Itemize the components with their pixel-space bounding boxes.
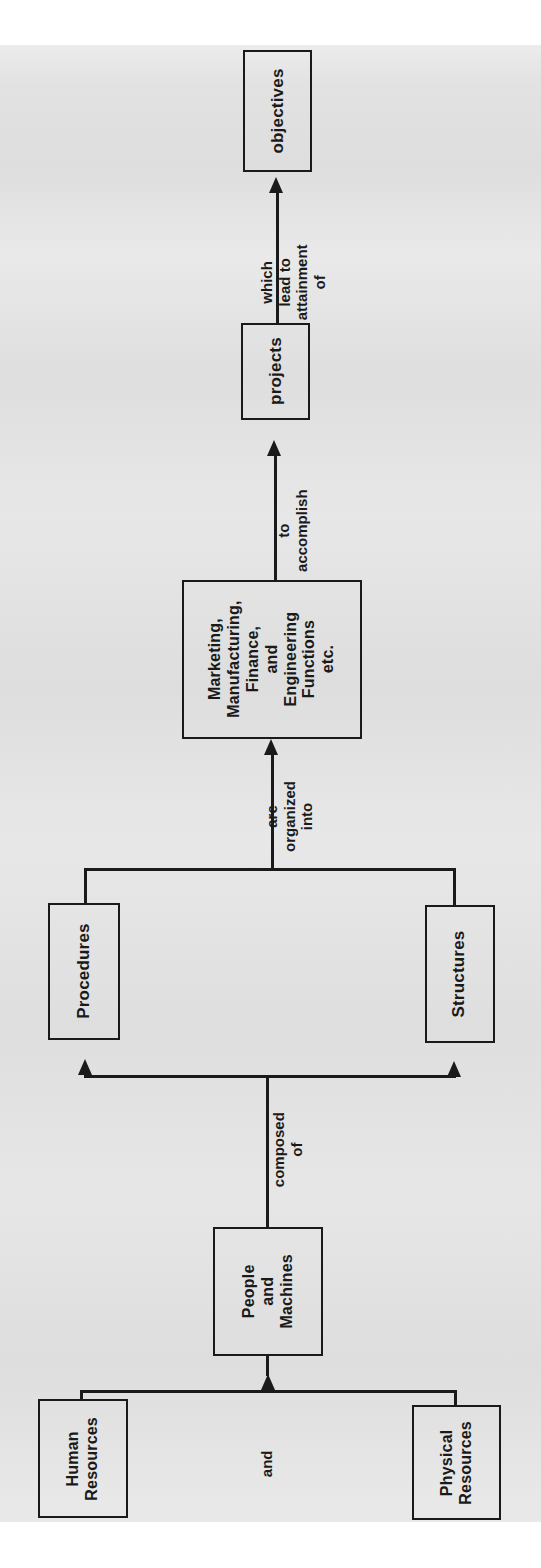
edge-label-composed-line2: of bbox=[288, 1143, 305, 1157]
node-objectives-label: objectives bbox=[267, 68, 287, 153]
node-people-line1: People bbox=[240, 1265, 257, 1319]
node-functions-line3: Finance, bbox=[244, 626, 261, 693]
edge-label-organized-line2: organized bbox=[281, 781, 298, 852]
node-structures: Structures bbox=[425, 905, 495, 1043]
edge-label-and: and bbox=[258, 1434, 276, 1494]
node-physical-line1: Physical bbox=[438, 1429, 455, 1496]
node-functions-line4: and bbox=[263, 645, 280, 674]
bracket-physical-resources-stem bbox=[454, 1390, 457, 1406]
edge-projects-to-objectives-arrowhead bbox=[269, 177, 283, 193]
edge-label-and-text: and bbox=[258, 1451, 275, 1478]
edge-label-accomplish-line1: to bbox=[275, 524, 292, 538]
edge-to-structures-arrowhead bbox=[447, 1061, 461, 1077]
edge-label-organized-into: are organized into bbox=[263, 754, 316, 880]
node-functions-label: Marketing, Manufacturing, Finance, and E… bbox=[206, 601, 338, 718]
edge-functions-to-projects-arrowhead bbox=[267, 440, 281, 456]
node-human-resources: Human Resources bbox=[38, 1399, 128, 1518]
edge-label-accomplish: to accomplish bbox=[275, 468, 310, 594]
node-objectives: objectives bbox=[243, 50, 312, 172]
bracket-resources-bar bbox=[80, 1390, 457, 1393]
bracket-structures-stem bbox=[453, 868, 456, 907]
node-people-and-machines: People and Machines bbox=[213, 1227, 323, 1356]
node-people-label: People and Machines bbox=[240, 1254, 297, 1329]
edge-label-lead-to-line4: of bbox=[311, 275, 328, 289]
bracket-procedures-stem bbox=[84, 868, 87, 905]
node-functions: Marketing, Manufacturing, Finance, and E… bbox=[182, 580, 362, 739]
node-human-label: Human Resources bbox=[64, 1417, 102, 1501]
node-procedures-label: Procedures bbox=[74, 924, 94, 1020]
edge-label-accomplish-line2: accomplish bbox=[293, 489, 310, 572]
node-people-line2: and bbox=[259, 1277, 276, 1306]
edge-resources-to-people-arrowhead bbox=[261, 1374, 275, 1390]
edge-label-organized-line1: are bbox=[263, 805, 280, 828]
flowchart-diagram: objectives which lead to attainment of p… bbox=[0, 0, 541, 1568]
node-functions-line7: etc. bbox=[319, 645, 336, 673]
bracket-composed-of-bar bbox=[84, 1075, 456, 1078]
node-physical-line2: Resources bbox=[457, 1421, 474, 1505]
edge-label-organized-line3: into bbox=[299, 803, 316, 831]
edge-people-to-bracket-line bbox=[266, 1075, 269, 1227]
node-physical-resources: Physical Resources bbox=[412, 1405, 501, 1520]
edge-to-procedures-arrowhead bbox=[78, 1059, 92, 1075]
edge-resources-to-people-line bbox=[266, 1356, 269, 1376]
edge-label-composed-of: composed of bbox=[270, 1085, 305, 1215]
edge-label-lead-to-line3: attainment bbox=[293, 244, 310, 320]
node-projects: projects bbox=[241, 323, 310, 420]
edge-label-lead-to-line2: lead to bbox=[275, 258, 292, 306]
node-functions-line5: Engineering bbox=[281, 612, 298, 707]
node-functions-line1: Marketing, bbox=[206, 619, 223, 701]
node-procedures: Procedures bbox=[48, 903, 120, 1040]
bracket-procedures-structures-top bbox=[84, 868, 456, 871]
node-human-line2: Resources bbox=[83, 1417, 100, 1501]
edge-label-lead-to-line1: which bbox=[258, 261, 275, 304]
node-people-line3: Machines bbox=[277, 1254, 294, 1329]
node-projects-label: projects bbox=[265, 338, 285, 406]
edge-label-composed-line1: composed bbox=[270, 1112, 287, 1187]
node-functions-line2: Manufacturing, bbox=[225, 601, 242, 718]
node-human-line1: Human bbox=[64, 1431, 81, 1486]
node-structures-label: Structures bbox=[450, 930, 470, 1017]
node-functions-line6: Functions bbox=[300, 620, 317, 698]
node-physical-label: Physical Resources bbox=[438, 1421, 476, 1505]
